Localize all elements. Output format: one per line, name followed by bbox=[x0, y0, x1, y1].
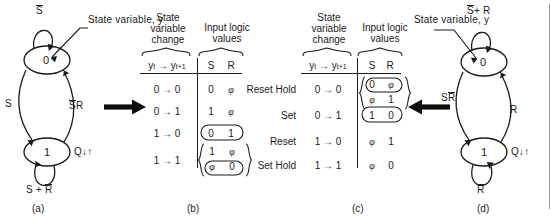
table-b-col-state-change: yt → yt+1 bbox=[141, 60, 193, 71]
transition-label-d-self-top-over: S bbox=[467, 5, 474, 17]
table-c-col-state-change: yt → yt+1 bbox=[302, 60, 354, 71]
table-c-row0-r: φ bbox=[385, 79, 397, 90]
table-c-col-y-t1-sub: t+1 bbox=[337, 63, 347, 70]
table-row: 0 → 1 bbox=[141, 106, 193, 117]
list-item: Reset bbox=[234, 136, 296, 147]
table-c-row2-s: φ bbox=[366, 136, 378, 147]
table-row: 0 → 0 bbox=[141, 84, 193, 95]
state-node-0-label-a: 0 bbox=[43, 54, 49, 66]
table-row: 0 → 0 bbox=[302, 84, 354, 95]
table-row: 1 → 0 bbox=[141, 128, 193, 139]
table-b-row2-s: 0 bbox=[205, 128, 217, 139]
table-row: 1 → 1 bbox=[302, 160, 354, 171]
caption-c: (c) bbox=[352, 203, 364, 214]
table-b-row3-s: 1 bbox=[206, 146, 218, 157]
table-b-row1-s: 1 bbox=[205, 106, 217, 117]
caption-a: (a) bbox=[32, 203, 44, 214]
table-b-row2-change: 1 → 0 bbox=[154, 128, 181, 139]
caption-d: (d) bbox=[477, 203, 489, 214]
transition-label-d-down-s: S bbox=[441, 92, 448, 103]
transition-label-d-down-r: R bbox=[448, 92, 455, 104]
state-node-0-label-d: 0 bbox=[480, 56, 486, 68]
transition-label-d-self-bottom: R bbox=[477, 184, 484, 196]
transition-label-a-self-top: S bbox=[36, 5, 43, 17]
transition-label-a-up-over: S bbox=[69, 100, 76, 112]
table-row: 0 → 1 bbox=[302, 110, 354, 121]
table-c-row3-change: 1 → 1 bbox=[315, 160, 342, 171]
table-b-header-state-line3: change bbox=[139, 34, 197, 45]
output-label-d: Q↓↑ bbox=[511, 146, 529, 157]
table-c-row1-r: 0 bbox=[385, 110, 397, 121]
table-c-row0-r2: 1 bbox=[385, 94, 397, 105]
transition-label-a-self-bottom-r: R bbox=[45, 184, 52, 196]
table-b-header-underline bbox=[140, 73, 242, 74]
list-item: Set bbox=[234, 110, 296, 121]
transition-label-a-down-text: S bbox=[5, 98, 12, 109]
table-b-row0-change: 0 → 0 bbox=[154, 84, 181, 95]
table-c-col-arrow: → bbox=[319, 60, 329, 71]
transition-label-a-self-top-text: S bbox=[36, 5, 43, 17]
caption-b: (b) bbox=[187, 203, 199, 214]
table-c-row0-s2: φ bbox=[366, 94, 378, 105]
table-c-row3-s: φ bbox=[366, 160, 378, 171]
table-b-col-arrow: → bbox=[158, 60, 168, 71]
transition-label-d-self-top-plain: + R bbox=[474, 5, 490, 16]
table-c-row1-change: 0 → 1 bbox=[315, 110, 342, 121]
table-b-col-y-t1-sub: t+1 bbox=[176, 63, 186, 70]
table-c-row-labels: Reset Hold Set Reset Set Hold bbox=[234, 0, 296, 200]
transition-label-d-self-top: S+ R bbox=[467, 5, 490, 17]
table-c-col-r: R bbox=[384, 60, 396, 71]
page-edge-rule bbox=[549, 4, 550, 209]
table-row: 1 → 0 bbox=[302, 136, 354, 147]
transition-label-a-up: SR bbox=[69, 100, 83, 112]
table-c-row0-change: 0 → 0 bbox=[315, 84, 342, 95]
table-b-row0-s: 0 bbox=[205, 84, 217, 95]
transition-label-a-self-bottom-s: S bbox=[26, 184, 33, 195]
table-b-row3-s2: φ bbox=[206, 161, 218, 172]
table-b-header-state-line2: variable bbox=[139, 23, 197, 34]
table-c-header-state-line3: change bbox=[300, 34, 358, 45]
transition-label-a-self-bottom-plus: + bbox=[36, 184, 45, 195]
table-b-header-state-change: State variable change bbox=[139, 12, 197, 45]
table-c-row1-s: 1 bbox=[366, 110, 378, 121]
output-label-a: Q↓↑ bbox=[74, 146, 92, 157]
table-c-header-input-line2: values bbox=[356, 33, 414, 44]
transition-label-d-self-bottom-text: R bbox=[477, 184, 484, 196]
table-b-col-s: S bbox=[205, 60, 217, 71]
panel-d: 0 1 State variable, y S+ R SR R Q↓↑ R (d… bbox=[414, 0, 549, 223]
transition-label-a-self-bottom: S + R bbox=[26, 184, 52, 196]
table-c-header-state-line1: State bbox=[300, 12, 358, 23]
table-c-header-state-change: State variable change bbox=[300, 12, 358, 45]
transition-label-d-down: SR bbox=[441, 92, 455, 104]
table-row: 1 → 1 bbox=[141, 155, 193, 166]
table-c-col-y-t-sub: t bbox=[314, 63, 316, 70]
table-c-header-input-line1: Input logic bbox=[356, 22, 414, 33]
table-c-row2-change: 1 → 0 bbox=[315, 136, 342, 147]
table-c-row0-s: 0 bbox=[366, 79, 378, 90]
table-b-header-state-line1: State bbox=[139, 12, 197, 23]
state-diagram-d-graphics bbox=[414, 0, 549, 200]
table-b-row3-change: 1 → 1 bbox=[154, 155, 181, 166]
table-c-header-underline bbox=[301, 73, 401, 74]
table-c-row2-r: 1 bbox=[385, 136, 397, 147]
state-node-1-label-a: 1 bbox=[44, 146, 50, 158]
table-c-header-state-line2: variable bbox=[300, 23, 358, 34]
list-item: Reset Hold bbox=[234, 84, 296, 95]
table-c-col-s: S bbox=[366, 60, 378, 71]
table-b-row1-change: 0 → 1 bbox=[154, 106, 181, 117]
list-item: Set Hold bbox=[234, 160, 296, 171]
transition-label-a-up-plain: R bbox=[76, 100, 83, 111]
table-c-header-braces bbox=[300, 46, 418, 58]
table-b-col-y-t-sub: t bbox=[153, 63, 155, 70]
table-c-vertical-divider bbox=[357, 58, 358, 168]
transition-label-a-down: S bbox=[5, 98, 12, 109]
state-node-1-label-d: 1 bbox=[481, 146, 487, 158]
table-c-header-input-values: Input logic values bbox=[356, 22, 414, 44]
panel-c: State variable change Input logic values… bbox=[300, 0, 410, 223]
transition-label-d-up: R bbox=[510, 104, 517, 115]
table-c-row3-r: 0 bbox=[385, 160, 397, 171]
